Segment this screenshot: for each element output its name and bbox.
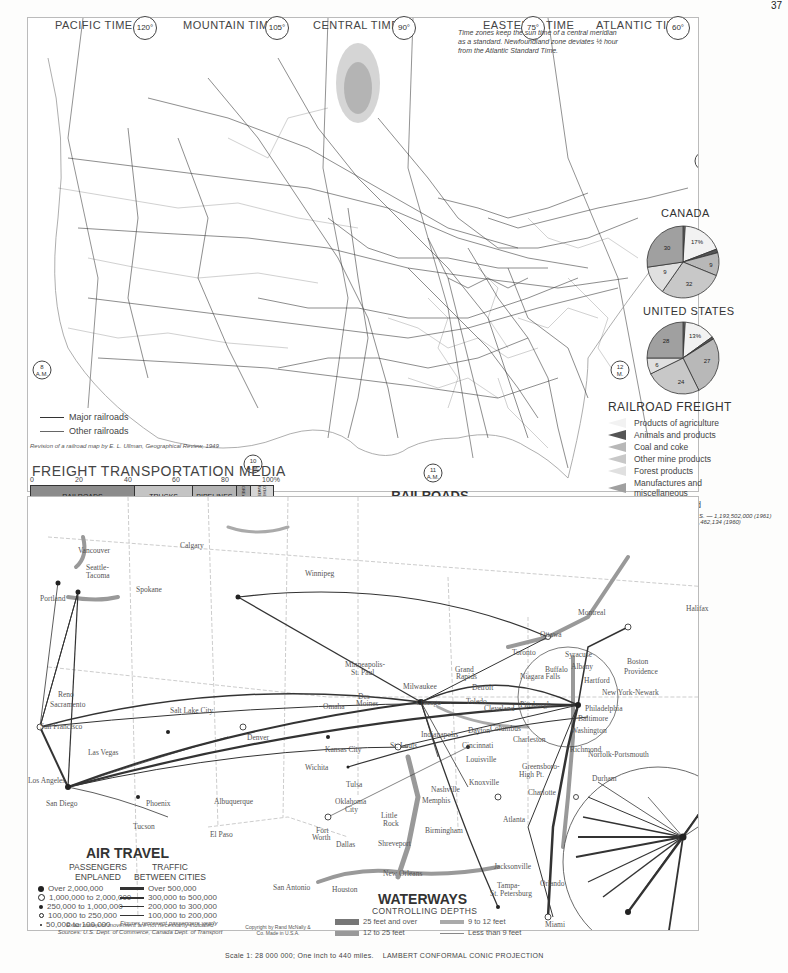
svg-text:A.M.: A.M.	[36, 371, 49, 377]
thick-line-icon	[120, 887, 144, 890]
city-label: Las Vegas	[88, 748, 118, 757]
city-label: High Pt.	[519, 770, 544, 779]
city-label: Baltimore	[578, 714, 608, 723]
major-railroad-line-swatch	[40, 417, 64, 418]
railroad-map-credit: Revision of a railroad map by E. L. Ullm…	[30, 443, 219, 449]
city-label: Syracuse	[565, 650, 592, 659]
freight-item-label: Coal and coke	[634, 442, 688, 452]
axis-tick: 0	[30, 476, 34, 483]
thin-line-icon	[120, 906, 144, 907]
city-label: Albany	[571, 662, 593, 671]
city-label: Omaha	[323, 702, 345, 711]
small-filled-dot-icon	[40, 924, 42, 926]
city-label: Detroit	[472, 683, 493, 692]
medium-filled-dot-icon	[39, 905, 43, 909]
waterway-item-label: 9 to 12 feet	[468, 917, 506, 926]
city-label: Columbus	[490, 724, 521, 733]
air-note-routes: Exact routes of movement are not necessa…	[45, 922, 235, 929]
svg-text:28: 28	[663, 338, 670, 344]
meridian-marker-60: 60°	[666, 16, 690, 40]
air-travel-title: AIR TRAVEL	[86, 845, 169, 861]
svg-text:32: 32	[686, 281, 693, 287]
pie-title-canada: CANADA	[661, 207, 710, 219]
svg-text:24: 24	[678, 379, 685, 385]
city-label: Philadelphia	[585, 704, 623, 713]
waterway-item: 9 to 12 feet	[440, 917, 545, 926]
traffic-item: 100,000 to 200,000	[120, 911, 220, 920]
waterway-item-label: 12 to 25 feet	[363, 928, 405, 937]
freight-item-coal: Coal and coke	[608, 442, 788, 452]
medium-line-icon	[120, 897, 144, 899]
map-footer: Scale 1: 28 000 000; One inch to 440 mil…	[225, 952, 544, 959]
legend-other-railroads: Other railroads	[40, 426, 129, 436]
city-label: Tulsa	[346, 780, 362, 789]
city-label: Rock	[383, 819, 399, 828]
city-label: Charlotte	[528, 788, 556, 797]
waterways-subtitle: CONTROLLING DEPTHS	[372, 906, 477, 916]
projection-text: LAMBERT CONFORMAL CONIC PROJECTION	[383, 952, 544, 959]
city-label: Shreveport	[378, 839, 411, 848]
triangle-swatch-icon	[608, 430, 626, 440]
large-filled-dot-icon	[38, 886, 44, 892]
axis-tick: 80	[221, 476, 229, 483]
traffic-item-label: Over 500,000	[148, 884, 196, 893]
svg-text:12: 12	[617, 364, 624, 370]
city-label: New Orleans	[383, 869, 422, 878]
city-label: Atlanta	[503, 815, 525, 824]
city-label: Los Angeles	[28, 776, 65, 785]
city-label: Providence	[624, 667, 658, 676]
passenger-item-label: 1,000,000 to 2,000,000	[49, 893, 131, 902]
time-zone-note: Time zones keep the sun time of a centra…	[458, 28, 618, 55]
waterway-swatch-icon	[440, 933, 464, 934]
traffic-item-label: 100,000 to 200,000	[148, 911, 217, 920]
pie-title-united-states: UNITED STATES	[643, 305, 735, 317]
traffic-legend: TRAFFIC BETWEEN CITIES Over 500,000 300,…	[120, 862, 220, 926]
city-label: Albuquerque	[214, 797, 253, 806]
city-label: San Antonio	[273, 883, 310, 892]
waterway-item-label: Less than 9 feet	[468, 928, 521, 937]
city-label: Moines	[356, 699, 379, 708]
svg-text:27: 27	[704, 358, 711, 364]
city-label: San Diego	[46, 799, 77, 808]
zone-label-central: CENTRAL TIME	[313, 19, 399, 31]
city-label: Toronto	[512, 648, 536, 657]
city-label: Spokane	[136, 585, 162, 594]
triangle-swatch-icon	[608, 442, 626, 452]
zone-label-mountain: MOUNTAIN TIME	[183, 19, 276, 31]
passenger-item-label: 250,000 to 1,000,000	[47, 902, 123, 911]
city-label: Washington	[571, 726, 607, 735]
legend-major-label: Major railroads	[69, 412, 129, 422]
axis-tick: 20	[75, 476, 83, 483]
city-label: Calgary	[180, 541, 204, 550]
legend-other-label: Other railroads	[69, 426, 129, 436]
axis-tick: 60	[172, 476, 180, 483]
city-label: Rapids	[456, 672, 477, 681]
city-label: Reno	[58, 690, 74, 699]
waterway-item: 12 to 25 feet	[335, 928, 440, 937]
pie-chart-united-states: 13% 27 24 6 28	[643, 318, 723, 398]
small-open-dot-icon	[39, 913, 44, 918]
waterway-item-label: 25 feet and over	[363, 917, 417, 926]
zone-label-pacific: PACIFIC TIME	[55, 19, 133, 31]
waterway-swatch-icon	[335, 931, 359, 936]
page-number: 37	[771, 0, 782, 11]
legend-major-railroads: Major railroads	[40, 412, 129, 422]
triangle-swatch-icon	[608, 483, 626, 493]
freight-item-animals: Animals and products	[608, 430, 788, 440]
city-label: St. Petersburg	[490, 889, 532, 898]
city-label: Winnipeg	[305, 569, 334, 578]
axis-tick: 100%	[262, 476, 280, 483]
waterway-swatch-icon	[440, 920, 464, 924]
traffic-item-label: 300,000 to 500,000	[148, 893, 217, 902]
city-label: Niagara Falls	[520, 672, 560, 681]
traffic-item-label: 200,000 to 300,000	[148, 902, 217, 911]
city-label: Phoenix	[146, 799, 171, 808]
svg-text:17%: 17%	[691, 239, 704, 245]
city-label: Dallas	[336, 840, 355, 849]
axis-tick: 40	[124, 476, 132, 483]
triangle-swatch-icon	[608, 418, 626, 428]
city-label: Houston	[332, 885, 357, 894]
city-label: Boston	[627, 657, 648, 666]
city-label: Dayton	[468, 726, 490, 735]
waterways-legend: 25 feet and over 9 to 12 feet 12 to 25 f…	[335, 917, 545, 937]
